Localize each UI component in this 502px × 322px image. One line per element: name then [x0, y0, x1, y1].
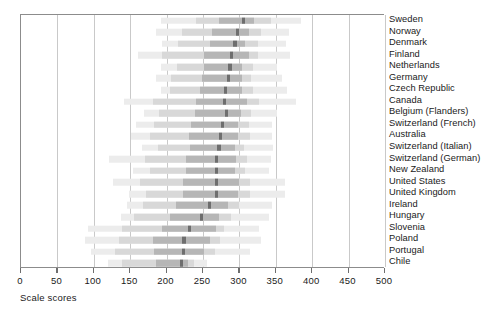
x-tick-300 — [238, 268, 239, 273]
gridline-500 — [385, 15, 386, 267]
category-label-switzerland-german: Switzerland (German) — [389, 153, 480, 165]
mean-marker — [242, 17, 245, 24]
x-tick-50 — [56, 268, 57, 273]
x-tick-250 — [202, 268, 203, 273]
category-label-poland: Poland — [389, 233, 418, 245]
x-tick-500 — [384, 268, 385, 273]
bar-row — [21, 84, 384, 96]
mean-marker — [215, 156, 218, 163]
bar-row — [21, 211, 384, 223]
category-label-canada: Canada — [389, 95, 422, 107]
band-core — [195, 110, 241, 117]
category-label-sweden: Sweden — [389, 14, 423, 26]
band-core — [154, 248, 204, 255]
x-tick-label-450: 450 — [339, 275, 355, 286]
band-core — [200, 87, 241, 94]
bar-row — [21, 246, 384, 258]
x-tick-200 — [166, 268, 167, 273]
bar-row — [21, 154, 384, 166]
category-label-ireland: Ireland — [389, 199, 418, 211]
mean-marker — [215, 168, 218, 175]
bar-row — [21, 177, 384, 189]
category-label-australia: Australia — [389, 129, 426, 141]
x-tick-400 — [311, 268, 312, 273]
x-tick-450 — [348, 268, 349, 273]
category-label-slovenia: Slovenia — [389, 222, 425, 234]
band-core — [183, 179, 239, 186]
category-label-norway: Norway — [389, 26, 421, 38]
mean-marker — [221, 121, 224, 128]
mean-marker — [233, 41, 236, 48]
band-core — [189, 133, 238, 140]
x-tick-label-400: 400 — [303, 275, 319, 286]
plot-area — [20, 14, 384, 268]
category-label-czech-republic: Czech Republic — [389, 83, 455, 95]
x-tick-label-0: 0 — [17, 275, 22, 286]
mean-marker — [227, 75, 230, 82]
mean-marker — [219, 133, 222, 140]
bar-row — [21, 38, 384, 50]
mean-marker — [225, 110, 228, 117]
bar-row — [21, 15, 384, 27]
mean-marker — [228, 64, 231, 71]
bar-row — [21, 234, 384, 246]
bar-row — [21, 130, 384, 142]
category-label-new-zealand: New Zealand — [389, 164, 444, 176]
x-tick-label-350: 350 — [267, 275, 283, 286]
mean-marker — [236, 29, 239, 36]
band-core — [204, 52, 248, 59]
band-core — [186, 168, 236, 175]
x-tick-label-200: 200 — [157, 275, 173, 286]
x-tick-label-50: 50 — [51, 275, 62, 286]
x-tick-label-100: 100 — [85, 275, 101, 286]
mean-marker — [188, 225, 191, 232]
x-tick-350 — [275, 268, 276, 273]
category-labels: SwedenNorwayDenmarkFinlandNetherlandsGer… — [389, 14, 502, 268]
bar-row — [21, 165, 384, 177]
bar-row — [21, 142, 384, 154]
category-label-hungary: Hungary — [389, 210, 425, 222]
bar-row — [21, 61, 384, 73]
bar-rows — [21, 15, 384, 267]
band-core — [183, 191, 238, 198]
category-label-chile: Chile — [389, 256, 410, 268]
mean-marker — [215, 179, 218, 186]
x-tick-label-500: 500 — [376, 275, 392, 286]
band-core — [202, 75, 242, 82]
band-core — [204, 64, 242, 71]
band-core — [191, 121, 238, 128]
chart-root: 050100150200250300350400450500 Scale sco… — [0, 0, 502, 322]
mean-marker — [182, 248, 185, 255]
category-label-united-states: United States — [389, 176, 445, 188]
mean-marker — [223, 98, 226, 105]
x-tick-label-150: 150 — [121, 275, 137, 286]
band-core — [176, 202, 228, 209]
bar-row — [21, 223, 384, 235]
category-label-belgium-flanders: Belgium (Flanders) — [389, 106, 468, 118]
mean-marker — [200, 214, 203, 221]
bar-row — [21, 50, 384, 62]
band-core — [210, 41, 246, 48]
x-tick-label-250: 250 — [194, 275, 210, 286]
x-axis-tick-labels: 050100150200250300350400450500 — [0, 275, 502, 289]
x-axis-ticks — [20, 268, 384, 274]
category-label-switzerland-italian: Switzerland (Italian) — [389, 141, 472, 153]
category-label-netherlands: Netherlands — [389, 60, 440, 72]
bar-row — [21, 73, 384, 85]
bar-row — [21, 200, 384, 212]
mean-marker — [208, 202, 211, 209]
bar-row — [21, 107, 384, 119]
bar-row — [21, 119, 384, 131]
x-tick-150 — [129, 268, 130, 273]
mean-marker — [182, 237, 185, 244]
bar-row — [21, 27, 384, 39]
category-label-finland: Finland — [389, 49, 420, 61]
category-label-germany: Germany — [389, 72, 428, 84]
band-core — [212, 29, 249, 36]
x-axis-title: Scale scores — [20, 292, 77, 303]
x-tick-100 — [93, 268, 94, 273]
x-tick-0 — [20, 268, 21, 273]
mean-marker — [224, 87, 227, 94]
category-label-switzerland-french: Switzerland (French) — [389, 118, 476, 130]
category-label-portugal: Portugal — [389, 245, 424, 257]
